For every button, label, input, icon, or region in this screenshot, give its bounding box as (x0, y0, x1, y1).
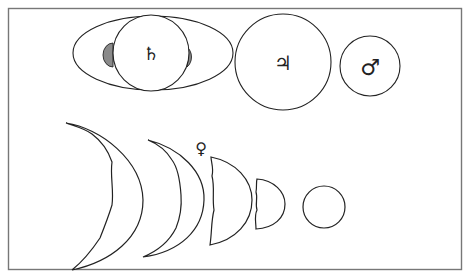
saturn-symbol: ♄ (143, 43, 159, 64)
venus-symbol: ♀ (195, 139, 207, 158)
venus-phase-large-crescent (66, 123, 143, 270)
venus-phase-half (210, 157, 252, 245)
planets-figure: ♄ ♃ ♂ ♀ (0, 0, 468, 278)
saturn: ♄ (73, 15, 233, 91)
jupiter-symbol: ♃ (274, 51, 292, 75)
mars: ♂ (340, 36, 400, 96)
venus-phase-full (303, 186, 345, 228)
venus-phases: ♀ (66, 123, 345, 270)
mars-symbol: ♂ (360, 55, 380, 80)
jupiter: ♃ (235, 14, 331, 110)
venus-phase-gibbous (255, 179, 285, 229)
saturn-ring-shadow-left (103, 43, 113, 67)
